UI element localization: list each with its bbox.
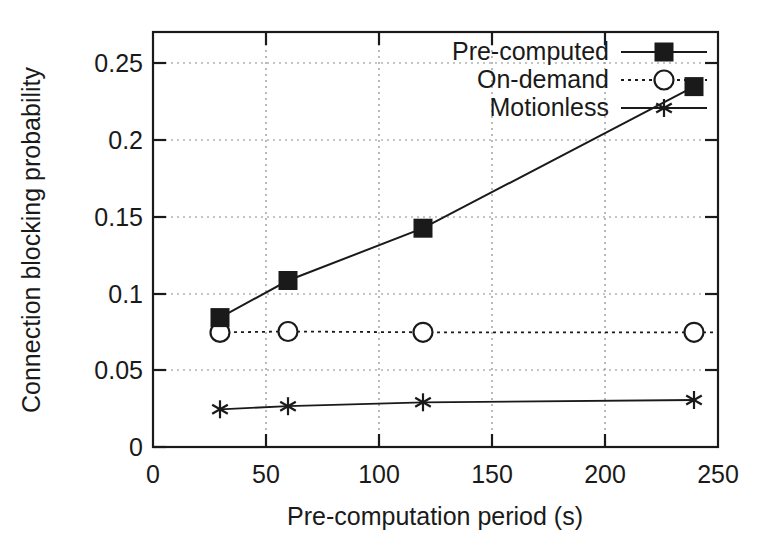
data-point-marker <box>414 219 433 238</box>
y-tick-label-4: 0.2 <box>108 126 143 154</box>
legend-marker-open-circle-icon <box>655 71 674 90</box>
y-tick-label-3: 0.15 <box>94 203 143 231</box>
y-tick-label-0: 0 <box>129 433 143 461</box>
y-tick-label-2: 0.1 <box>108 280 143 308</box>
x-axis-title: Pre-computation period (s) <box>287 502 583 530</box>
legend-marker-filled-square-icon <box>655 43 674 62</box>
x-tick-label-0: 0 <box>146 460 160 488</box>
data-point-marker <box>685 323 704 342</box>
x-tick-label-3: 150 <box>471 460 513 488</box>
legend-label-on-demand: On-demand <box>477 65 609 93</box>
x-tick-label-1: 50 <box>252 460 280 488</box>
y-tick-label-5: 0.25 <box>94 49 143 77</box>
data-point-marker <box>414 323 433 342</box>
data-point-marker <box>279 271 298 290</box>
x-tick-label-5: 250 <box>697 460 739 488</box>
x-tick-label-2: 100 <box>358 460 400 488</box>
data-point-marker <box>211 308 230 327</box>
chart-legend: Pre-computed On-demand Motionless <box>452 37 707 121</box>
y-tick-label-1: 0.05 <box>94 356 143 384</box>
chart-canvas: 0 0.05 0.1 0.15 0.2 0.25 0 50 100 150 20… <box>0 0 768 546</box>
legend-label-motionless: Motionless <box>490 93 610 121</box>
data-point-marker <box>279 322 298 341</box>
y-axis-title: Connection blocking probability <box>17 66 45 413</box>
x-tick-label-4: 200 <box>584 460 626 488</box>
chart-figure: 0 0.05 0.1 0.15 0.2 0.25 0 50 100 150 20… <box>0 0 768 546</box>
legend-label-pre-computed: Pre-computed <box>452 37 609 65</box>
